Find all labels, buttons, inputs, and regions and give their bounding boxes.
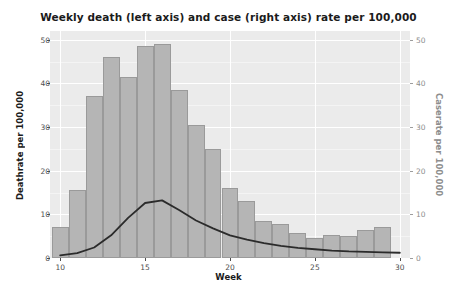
x-axis-tick-mark	[230, 258, 231, 261]
y-axis-right-tick-label: 50	[416, 35, 442, 44]
y-axis-right-tick-mark	[410, 127, 413, 128]
y-axis-right-tick-mark	[410, 258, 413, 259]
x-axis-tick-mark	[145, 258, 146, 261]
x-axis-tick-mark	[400, 258, 401, 261]
chart-title: Weekly death (left axis) and case (right…	[0, 11, 457, 23]
x-axis-tick-label: 25	[300, 263, 330, 272]
x-axis-tick-label: 30	[385, 263, 415, 272]
y-axis-left-tick-mark	[47, 258, 50, 259]
y-axis-left-tick-mark	[47, 171, 50, 172]
x-axis-tick-label: 10	[45, 263, 75, 272]
y-axis-left-tick-mark	[47, 127, 50, 128]
y-axis-right-tick-mark	[410, 214, 413, 215]
x-axis-tick-label: 15	[130, 263, 160, 272]
y-axis-right-tick-label: 40	[416, 79, 442, 88]
chart-figure: Weekly death (left axis) and case (right…	[0, 0, 457, 294]
x-axis-tick-mark	[315, 258, 316, 261]
y-axis-right-tick-label: 30	[416, 123, 442, 132]
y-axis-right-tick-label: 20	[416, 166, 442, 175]
y-axis-left-ticks: 01020304050	[20, 31, 50, 258]
y-axis-right-tick-label: 10	[416, 210, 442, 219]
y-axis-left-tick-mark	[47, 40, 50, 41]
y-axis-right-tick-mark	[410, 40, 413, 41]
y-axis-left-tick-mark	[47, 83, 50, 84]
y-axis-right-tick-mark	[410, 83, 413, 84]
y-axis-left-tick-mark	[47, 214, 50, 215]
y-axis-right-tick-mark	[410, 171, 413, 172]
death-rate-line-series	[50, 31, 410, 258]
x-axis-tick-label: 20	[215, 263, 245, 272]
y-axis-right-ticks: 01020304050	[410, 31, 444, 258]
x-axis-label: Week	[0, 272, 457, 282]
death-rate-line	[60, 200, 400, 255]
y-axis-right-tick-label: 0	[416, 254, 442, 263]
x-axis-tick-mark	[60, 258, 61, 261]
